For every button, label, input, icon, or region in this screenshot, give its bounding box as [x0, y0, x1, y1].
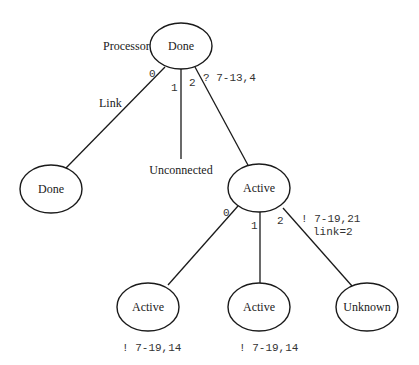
link-label: Link	[99, 96, 122, 110]
node-done-label: Done	[38, 182, 64, 196]
unconnected-label: Unconnected	[149, 163, 212, 177]
edge-root-0-index: 0	[149, 68, 156, 80]
edge-active-0-index: 0	[223, 207, 230, 219]
edge-root-0	[66, 67, 165, 168]
edge-active-1-index: 1	[251, 220, 258, 232]
node-active-child-0-label: Active	[132, 300, 164, 314]
active-annotation-line2: link=2	[313, 226, 353, 238]
node-done: Done	[20, 165, 82, 213]
root-annotation: ? 7-13,4	[203, 72, 256, 84]
edge-root-1-index: 1	[171, 82, 178, 94]
node-active-child-1-label: Active	[243, 300, 275, 314]
node-active: Active	[228, 164, 290, 212]
active-child-0-annotation: ! 7-19,14	[122, 342, 182, 354]
node-active-child-1: Active	[228, 283, 290, 331]
node-unknown: Unknown	[336, 283, 398, 331]
edge-active-2-index: 2	[277, 215, 284, 227]
node-active-child-0: Active	[117, 283, 179, 331]
node-active-label: Active	[243, 181, 275, 195]
active-child-1-annotation: ! 7-19,14	[239, 342, 299, 354]
tree-diagram: Done Processor ? 7-13,4 0 Link 1 2 Done …	[0, 0, 419, 365]
processor-label: Processor	[103, 39, 150, 53]
node-unknown-label: Unknown	[343, 300, 390, 314]
edge-root-2-index: 2	[189, 77, 196, 89]
node-root: Done	[150, 23, 212, 69]
active-annotation-line1: ! 7-19,21	[301, 213, 361, 225]
node-root-label: Done	[168, 39, 194, 53]
